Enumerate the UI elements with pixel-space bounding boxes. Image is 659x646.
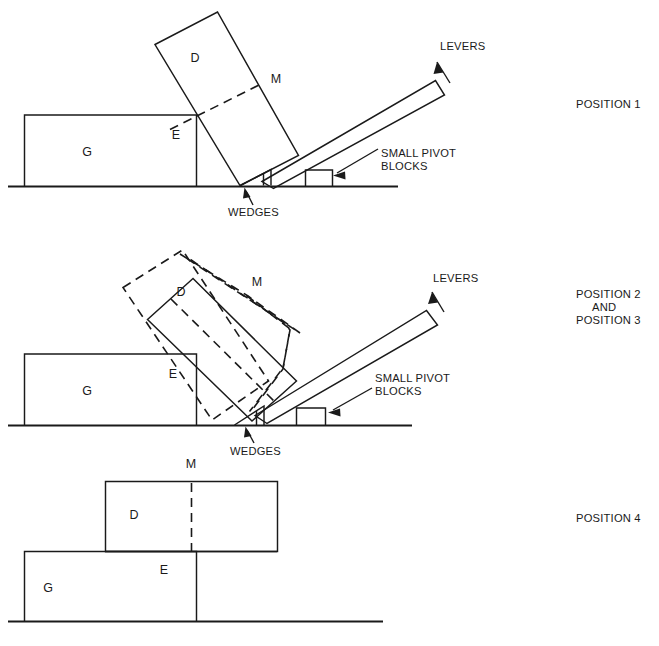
label-edge-e-1: E [172,128,180,142]
wedges-arrow-2 [244,427,252,438]
diagram-canvas: D G E M LEVERS SMALL PIVOT BLOCKS WEDGES… [0,0,659,646]
label-block-d-1: D [190,51,199,65]
label-block-g-1: G [82,145,92,159]
callout-pivot-blocks-line1-2: SMALL PIVOT [375,372,450,384]
position-label-1: POSITION 1 [576,98,641,110]
label-edge-e-2: E [169,367,177,381]
position-label-2-line2: AND [592,301,616,313]
position-label-2-line1: POSITION 2 [576,288,641,300]
label-block-d-2: D [176,285,185,299]
small-pivot-block-1 [306,170,333,186]
callout-wedges-1: WEDGES [228,206,279,218]
callout-wedges-2: WEDGES [230,445,281,457]
block-d-outline-2 [148,279,297,422]
label-line-m-4: M [186,457,196,471]
block-d-ghost-outline-b-2 [191,260,291,412]
callout-pivot-blocks-line2-1: BLOCKS [381,160,428,172]
small-pivot-block-2 [297,408,326,425]
lever-bar-1 [262,81,445,189]
levers-arrow-2 [428,292,438,304]
label-line-m-1: M [271,72,281,86]
label-block-g-4: G [43,581,53,595]
callout-pivot-blocks-line1-1: SMALL PIVOT [381,147,456,159]
label-block-d-4: D [129,508,138,522]
label-block-g-2: G [82,384,92,398]
diagram-position-1: D G E M LEVERS SMALL PIVOT BLOCKS WEDGES… [8,12,641,218]
block-d-ghost-outline-2 [123,250,269,420]
wedge-1a [241,170,272,186]
block-g-outline-2 [25,354,197,425]
wedges-arrow-1 [243,188,251,199]
line-m-dashed-2 [171,299,274,401]
pivot-blocks-leader-2 [333,388,372,410]
pivot-blocks-arrow-1 [333,172,346,180]
block-d-outline-1 [155,12,299,186]
position-label-2-line3: POSITION 3 [576,314,641,326]
diagram-position-2-and-3: D G E M LEVERS SMALL PIVOT BLOCKS WEDGES… [8,250,641,457]
callout-pivot-blocks-line2-2: BLOCKS [375,385,422,397]
position-label-4: POSITION 4 [576,512,641,524]
callout-levers-2: LEVERS [433,272,478,284]
callout-levers-1: LEVERS [440,40,485,52]
block-g-outline-1 [25,115,197,186]
line-m-dashed-1 [170,83,263,130]
diagram-position-4: D M E G POSITION 4 [8,457,641,622]
label-edge-e-4: E [160,563,168,577]
label-line-m-2: M [252,275,262,289]
pivot-blocks-leader-1 [337,149,378,173]
technical-diagram-figure: D G E M LEVERS SMALL PIVOT BLOCKS WEDGES… [0,0,659,646]
